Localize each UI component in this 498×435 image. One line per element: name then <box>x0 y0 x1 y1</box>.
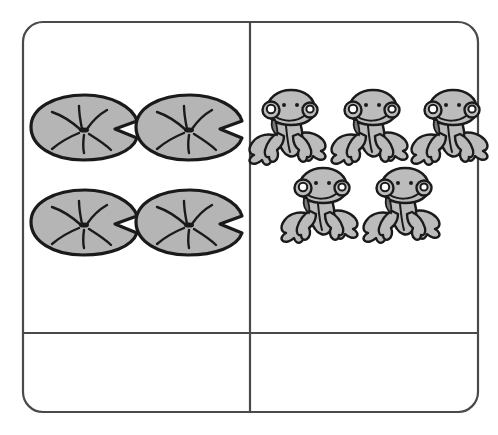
lily-pad-item <box>136 95 242 160</box>
lily-pad-icon <box>31 95 137 160</box>
answer-cell-left[interactable] <box>24 334 249 411</box>
frogs-cell-hitarea[interactable] <box>251 23 477 332</box>
lily-pad-item <box>136 190 242 255</box>
answer-cell-right[interactable] <box>251 334 477 411</box>
lily-pads-cell[interactable] <box>24 23 249 332</box>
lily-pad-icon <box>136 190 242 255</box>
lily-pad-item <box>31 190 137 255</box>
lily-pad-item <box>31 95 137 160</box>
lily-pads-cell-hitarea[interactable] <box>24 23 249 332</box>
frogs-cell[interactable] <box>250 23 488 332</box>
lily-pad-icon <box>31 190 137 255</box>
worksheet-canvas <box>0 0 498 435</box>
worksheet-svg <box>0 0 498 435</box>
lily-pad-icon <box>136 95 242 160</box>
